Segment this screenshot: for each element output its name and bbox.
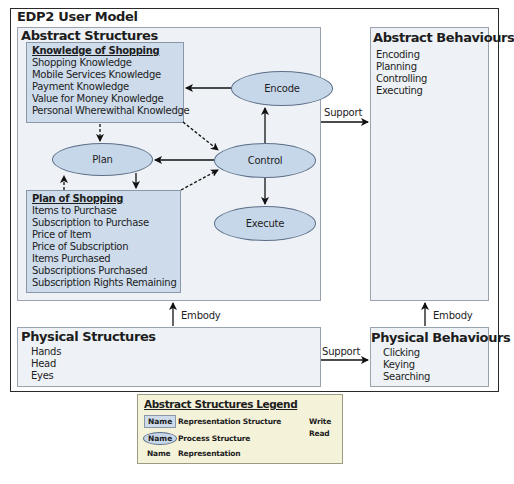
structure-item: Eyes <box>31 370 61 382</box>
abstract-behaviours-title: Abstract Behaviours <box>373 30 514 45</box>
legend-box: Abstract Structures Legend Name Represen… <box>137 394 343 464</box>
plan-item: Subscriptions Purchased <box>32 265 175 277</box>
embody-label-right: Embody <box>433 310 473 321</box>
behaviour-item: Controlling <box>376 73 427 85</box>
abstract-behaviours-list: Encoding Planning Controlling Executing <box>376 49 427 97</box>
execute-process: Execute <box>214 206 316 241</box>
plan-item: Items to Purchase <box>32 205 175 217</box>
plan-of-shopping-box: Plan of Shopping Items to Purchase Subsc… <box>26 190 181 293</box>
knowledge-item: Shopping Knowledge <box>32 57 178 69</box>
abstract-structures-title: Abstract Structures <box>21 28 158 43</box>
embody-label-left: Embody <box>181 310 221 321</box>
knowledge-of-shopping-box: Knowledge of Shopping Shopping Knowledge… <box>26 42 184 123</box>
legend-representation-text: Representation <box>178 449 240 458</box>
execute-label: Execute <box>246 218 285 229</box>
plan-item: Price of Item <box>32 229 175 241</box>
legend-representation-sample: Name <box>147 449 170 458</box>
physical-behaviours-list: Clicking Keying Searching <box>383 347 430 383</box>
support-label-bottom: Support <box>322 346 360 357</box>
knowledge-item: Personal Wherewithal Knowledge <box>32 105 178 117</box>
plan-item: Subscription Rights Remaining <box>32 277 175 289</box>
plan-item: Price of Subscription <box>32 241 175 253</box>
behaviour-item: Keying <box>383 359 430 371</box>
structure-item: Head <box>31 358 61 370</box>
behaviour-item: Planning <box>376 61 427 73</box>
control-label: Control <box>248 155 283 166</box>
behaviour-item: Executing <box>376 85 427 97</box>
legend-representation-structure-sample: Name <box>144 415 176 428</box>
legend-write-label: Write <box>309 417 331 426</box>
plan-label: Plan <box>92 154 112 165</box>
legend-title: Abstract Structures Legend <box>144 398 297 410</box>
behaviour-item: Clicking <box>383 347 430 359</box>
physical-behaviours-title: Physical Behaviours <box>371 330 510 345</box>
behaviour-item: Encoding <box>376 49 427 61</box>
legend-read-label: Read <box>309 429 330 438</box>
encode-label: Encode <box>264 83 300 94</box>
plan-heading: Plan of Shopping <box>32 193 175 205</box>
structure-item: Hands <box>31 346 61 358</box>
knowledge-heading: Knowledge of Shopping <box>32 45 178 57</box>
plan-item: Subscription to Purchase <box>32 217 175 229</box>
encode-process: Encode <box>231 71 333 106</box>
physical-structures-list: Hands Head Eyes <box>31 346 61 382</box>
knowledge-item: Payment Knowledge <box>32 81 178 93</box>
knowledge-item: Value for Money Knowledge <box>32 93 178 105</box>
control-process: Control <box>214 143 316 178</box>
knowledge-item: Mobile Services Knowledge <box>32 69 178 81</box>
plan-item: Items Purchased <box>32 253 175 265</box>
legend-process-structure-sample: Name <box>143 432 177 445</box>
plan-process: Plan <box>52 143 153 176</box>
diagram-title: EDP2 User Model <box>17 9 138 24</box>
physical-structures-title: Physical Structures <box>21 329 156 344</box>
legend-process-structure-text: Process Structure <box>178 434 250 443</box>
legend-representation-structure-text: Representation Structure <box>178 417 281 426</box>
behaviour-item: Searching <box>383 371 430 383</box>
support-label-top: Support <box>324 107 362 118</box>
